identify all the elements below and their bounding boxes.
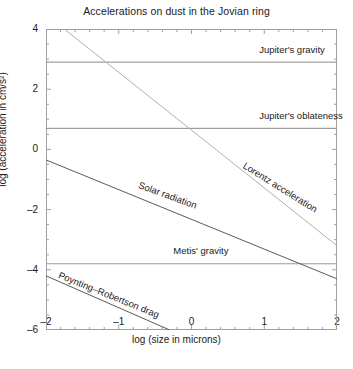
y-tick-label-2: –2	[12, 204, 38, 215]
y-tick-label-3: 0	[12, 143, 38, 154]
chart-figure: Accelerations on dust in the Jovian ring…	[0, 0, 353, 369]
y-tick-label-5: 4	[12, 23, 38, 34]
series-line-4	[46, 160, 337, 279]
series-line-3	[64, 29, 337, 246]
x-axis-label: log (size in microns)	[0, 334, 353, 345]
series-label-0: Jupiter's gravity	[259, 44, 325, 55]
series-line-5	[46, 276, 170, 330]
series-label-1: Jupiter's oblateness	[259, 110, 343, 121]
y-tick-label-4: 2	[12, 83, 38, 94]
plot-area: Jupiter's gravityJupiter's oblatenessMet…	[46, 29, 337, 330]
y-tick-label-0: –6	[12, 324, 38, 335]
chart-title: Accelerations on dust in the Jovian ring	[0, 5, 353, 17]
y-axis-label: log (acceleration in cm/s²)	[0, 0, 8, 280]
y-tick-label-1: –4	[12, 264, 38, 275]
series-label-2: Metis' gravity	[173, 245, 228, 256]
